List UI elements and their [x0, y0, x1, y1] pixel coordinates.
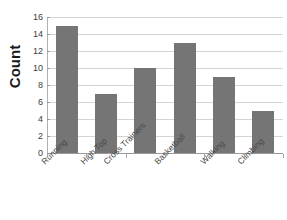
y-axis-tick-mark — [47, 68, 50, 69]
y-axis-tick-mark — [47, 34, 50, 35]
plot-area — [47, 17, 283, 153]
gridline — [47, 17, 283, 18]
y-axis-tick-label: 12 — [25, 47, 43, 56]
y-axis-tick-label: 4 — [25, 115, 43, 124]
x-axis-tick-mark — [47, 154, 48, 158]
x-axis-tick-mark — [244, 154, 245, 158]
y-axis-tick-mark — [47, 51, 50, 52]
y-axis-tick-mark — [47, 102, 50, 103]
x-axis-tick-mark — [86, 154, 87, 158]
gridline — [47, 85, 283, 86]
y-axis-tick-label: 10 — [25, 64, 43, 73]
y-axis-tick-label: 2 — [25, 132, 43, 141]
y-axis-title: Count — [6, 37, 23, 97]
y-axis-tick-labels: 1614121086420 — [22, 17, 43, 153]
x-axis-category-labels: RunningHigh TopCross TrainersBasketballW… — [0, 158, 287, 220]
gridline — [47, 51, 283, 52]
gridline — [47, 68, 283, 69]
y-axis-tick-label: 6 — [25, 98, 43, 107]
bar — [56, 26, 78, 154]
x-axis-tick-mark — [165, 154, 166, 158]
y-axis-tick-label: 16 — [25, 13, 43, 22]
y-axis-tick-mark — [47, 85, 50, 86]
gridline — [47, 136, 283, 137]
y-axis-tick-mark — [47, 119, 50, 120]
x-axis-tick-mark — [204, 154, 205, 158]
bar-chart-screenshot: Count 1614121086420 RunningHigh TopCross… — [0, 0, 287, 220]
y-axis-tick-label: 8 — [25, 81, 43, 90]
gridline — [47, 102, 283, 103]
y-axis-tick-label: 14 — [25, 30, 43, 39]
x-axis-tick-mark — [126, 154, 127, 158]
gridline — [47, 34, 283, 35]
bar — [134, 68, 156, 153]
gridline — [47, 119, 283, 120]
y-axis-tick-mark — [47, 17, 50, 18]
x-axis-tick-mark — [283, 154, 284, 158]
y-axis-tick-mark — [47, 136, 50, 137]
